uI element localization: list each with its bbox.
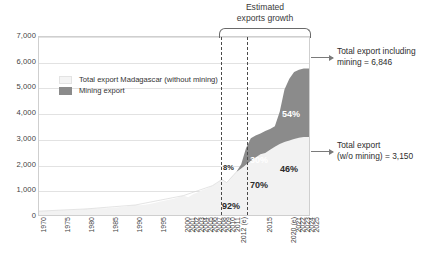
x-axis-tick: 1995 <box>160 217 167 233</box>
y-axis-tick: 4,000 <box>2 109 36 117</box>
share-2012-mining-label: 8% <box>223 163 234 172</box>
callout-arrow-including-mining <box>311 57 333 58</box>
legend-item-total: Total export Madagascar (without mining) <box>59 74 218 85</box>
x-axis-tick: 2025 <box>313 217 320 233</box>
estimated-band-label-line1: Estimated <box>200 2 330 13</box>
share-2012-nonmining-label: 92% <box>222 201 240 211</box>
chart-root: 7,000 6,000 5,000 4,000 3,000 2,000 1,00… <box>0 0 440 270</box>
y-axis-tick: 1,000 <box>2 186 36 194</box>
x-axis: 1970 1975 1980 1985 1990 1995 2000 2001 … <box>38 217 310 269</box>
y-axis: 7,000 6,000 5,000 4,000 3,000 2,000 1,00… <box>0 36 36 216</box>
x-axis-tick: 1970 <box>40 217 47 233</box>
x-axis-tick: 2015 <box>266 217 273 233</box>
y-axis-tick: 2,000 <box>2 161 36 169</box>
share-2015-mining-label: 30% <box>250 155 268 165</box>
x-axis-tick: 1985 <box>112 217 119 233</box>
x-axis-tick: 1990 <box>136 217 143 233</box>
y-axis-tick: 7,000 <box>2 32 36 40</box>
share-2015-nonmining-label: 70% <box>250 180 268 190</box>
estimated-band-bracket <box>219 28 311 38</box>
marker-2015 <box>247 37 248 215</box>
y-axis-tick: 3,000 <box>2 135 36 143</box>
y-axis-tick: 6,000 <box>2 58 36 66</box>
y-axis-tick: 0 <box>2 212 36 220</box>
share-2025-mining-label: 54% <box>282 109 300 119</box>
estimated-band-label-line2: exports growth <box>200 13 330 24</box>
x-axis-tick: 1980 <box>88 217 95 233</box>
legend-swatch-mining-icon <box>59 87 72 95</box>
legend-label-total: Total export Madagascar (without mining) <box>79 74 218 85</box>
legend-item-mining: Mining export <box>59 85 218 96</box>
stacked-area-series <box>39 37 309 215</box>
y-axis-tick: 5,000 <box>2 83 36 91</box>
callout-total-without-mining: Total export (w/o mining) = 3,150 <box>337 140 437 162</box>
legend-label-mining: Mining export <box>79 85 125 96</box>
callout-total-including-mining: Total export including mining = 6,846 <box>337 46 437 68</box>
legend: Total export Madagascar (without mining)… <box>59 74 218 96</box>
x-axis-tick: 2012 (e) <box>240 217 247 243</box>
legend-swatch-total-icon <box>59 76 72 84</box>
marker-2012 <box>221 37 222 215</box>
callout-arrow-without-mining <box>311 151 333 152</box>
plot-area: 8% 92% 30% 70% 54% 46% Total export Mada… <box>38 36 310 216</box>
x-axis-tick: 1975 <box>64 217 71 233</box>
share-2025-nonmining-label: 46% <box>280 164 298 174</box>
estimated-band-label: Estimated exports growth <box>200 2 330 24</box>
